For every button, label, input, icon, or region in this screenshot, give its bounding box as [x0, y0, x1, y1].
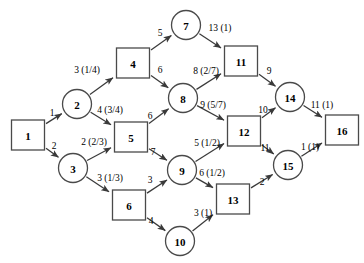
- node-2[interactable]: 2: [63, 90, 92, 119]
- edge-11-to-14: [259, 74, 275, 86]
- edge-label-12-14: 10: [258, 105, 268, 115]
- edge-label-11-14: 9: [267, 66, 272, 76]
- node-label-15: 15: [283, 160, 295, 172]
- edge-label-8-11: 8 (2/7): [193, 66, 219, 77]
- edges-layer: [46, 34, 322, 231]
- edge-label-13-15: 2: [260, 177, 265, 187]
- node-label-16: 16: [337, 125, 349, 137]
- node-7[interactable]: 7: [172, 11, 201, 40]
- edge-label-2-5: 4 (3/4): [97, 105, 123, 116]
- edge-label-9-13: 6 (1/2): [199, 168, 225, 179]
- node-label-7: 7: [183, 20, 189, 32]
- edge-labels-layer: 123 (1/4)4 (3/4)2 (2/3)3 (1/3)56673413 (…: [50, 23, 334, 226]
- edge-3-to-5: [87, 148, 111, 161]
- edge-label-5-9: 7: [151, 147, 156, 157]
- edge-label-1-2: 1: [50, 108, 55, 118]
- edge-label-14-16: 11 (1): [311, 100, 334, 111]
- node-13[interactable]: 13: [217, 184, 250, 214]
- node-label-3: 3: [70, 163, 76, 175]
- edge-label-3-6: 3 (1/3): [97, 173, 123, 184]
- edge-label-5-8: 6: [148, 111, 153, 121]
- edge-label-7-11: 13 (1): [209, 23, 232, 34]
- node-label-2: 2: [74, 99, 80, 111]
- network-diagram-canvas: 12345678910111213141516 123 (1/4)4 (3/4)…: [0, 0, 364, 263]
- node-11[interactable]: 11: [225, 46, 258, 76]
- node-label-5: 5: [128, 132, 134, 144]
- node-label-10: 10: [175, 236, 187, 248]
- nodes-layer: 12345678910111213141516: [12, 11, 359, 256]
- edge-label-10-13: 3 (1): [194, 208, 212, 219]
- node-label-6: 6: [126, 200, 132, 212]
- node-1[interactable]: 1: [12, 120, 45, 150]
- node-4[interactable]: 4: [117, 48, 150, 78]
- edge-7-to-11: [199, 34, 221, 48]
- edge-8-to-11: [196, 74, 221, 90]
- node-label-9: 9: [179, 165, 185, 177]
- node-label-8: 8: [180, 93, 186, 105]
- edge-label-12-15: 11: [260, 143, 269, 153]
- network-diagram: 12345678910111213141516 123 (1/4)4 (3/4)…: [0, 0, 364, 263]
- edge-label-9-12: 5 (1/2): [194, 138, 220, 149]
- node-10[interactable]: 10: [166, 227, 195, 256]
- edge-4-to-8: [151, 76, 168, 88]
- edge-label-2-4: 3 (1/4): [74, 65, 100, 76]
- edge-9-to-13: [196, 178, 213, 188]
- edge-label-1-3: 2: [52, 141, 57, 151]
- node-8[interactable]: 8: [169, 84, 198, 113]
- edge-label-4-8: 6: [158, 65, 163, 75]
- node-label-1: 1: [25, 130, 31, 142]
- node-3[interactable]: 3: [59, 154, 88, 183]
- node-9[interactable]: 9: [168, 156, 197, 185]
- node-label-4: 4: [130, 58, 136, 70]
- node-12[interactable]: 12: [228, 116, 261, 146]
- node-label-14: 14: [285, 92, 297, 104]
- edge-label-15-16: 1 (1): [301, 142, 319, 153]
- node-14[interactable]: 14: [276, 83, 305, 112]
- edge-label-4-7: 5: [158, 28, 163, 38]
- node-16[interactable]: 16: [326, 115, 359, 145]
- node-label-13: 13: [228, 194, 240, 206]
- node-5[interactable]: 5: [115, 122, 148, 152]
- edge-2-to-4: [90, 78, 113, 95]
- node-label-12: 12: [239, 126, 251, 138]
- edge-label-8-12: 9 (5/7): [200, 100, 226, 111]
- edge-label-6-10: 4: [149, 216, 154, 226]
- edge-label-3-5: 2 (2/3): [81, 137, 107, 148]
- node-6[interactable]: 6: [113, 190, 146, 220]
- edge-label-6-9: 3: [148, 175, 153, 185]
- node-15[interactable]: 15: [274, 151, 303, 180]
- node-label-11: 11: [236, 56, 246, 68]
